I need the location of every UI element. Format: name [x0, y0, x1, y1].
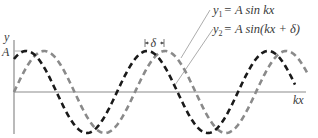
y2-leader-line: [175, 29, 213, 85]
x-axis-label: kx: [293, 93, 304, 107]
phase-delta-marker: δ: [145, 36, 164, 50]
y1-leader-line: [181, 10, 210, 58]
delta-label: δ: [151, 36, 157, 50]
y-axis-label: y: [3, 30, 10, 44]
equation-y1: y1= A sin kx: [211, 3, 275, 19]
equation-y2: y2= A sin(kx + δ): [211, 22, 300, 38]
sine-wave-phase-diagram: δ y1= A sin kx y2= A sin(kx + δ) y A kx: [0, 0, 318, 138]
amplitude-label: A: [1, 45, 10, 59]
